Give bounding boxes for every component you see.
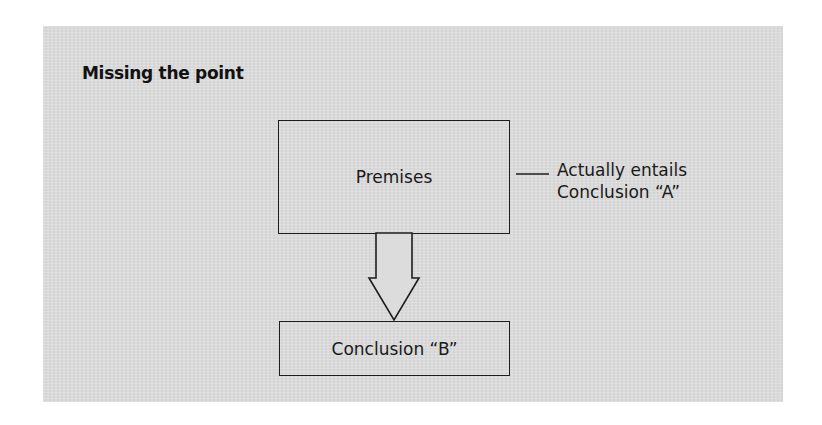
down-arrow-icon (369, 233, 419, 320)
annotation-line-1: Actually entails (557, 159, 687, 181)
annotation-line-2: Conclusion “A” (557, 181, 687, 203)
annotation-text: Actually entails Conclusion “A” (557, 159, 687, 203)
connectors (0, 0, 822, 425)
